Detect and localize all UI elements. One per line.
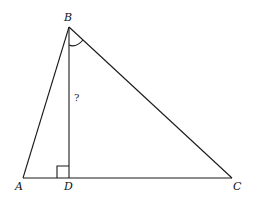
angle-b-arc — [69, 40, 83, 46]
label-d: D — [63, 180, 73, 193]
unknown-length-label: ? — [74, 92, 79, 103]
segment-ab — [23, 27, 69, 178]
label-a: A — [14, 180, 23, 193]
triangle-diagram: B A D C ? — [0, 0, 259, 204]
right-angle-marker — [57, 166, 69, 178]
segment-bc — [69, 27, 232, 178]
label-b: B — [63, 11, 72, 24]
label-c: C — [233, 180, 242, 193]
